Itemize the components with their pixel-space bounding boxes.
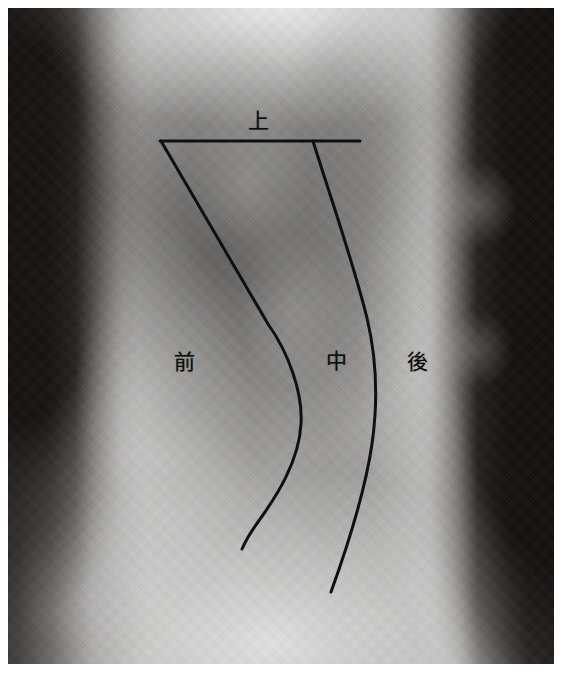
annotation-label-middle: 中 (326, 351, 347, 372)
annotation-label-upper: 上 (248, 111, 269, 132)
screenshot-page: 上前中後 (0, 0, 562, 674)
radiograph-plate (8, 8, 554, 664)
annotation-label-posterior: 後 (407, 352, 428, 373)
annotation-label-anterior: 前 (174, 352, 195, 373)
soft-tissue-shadows (8, 8, 554, 664)
